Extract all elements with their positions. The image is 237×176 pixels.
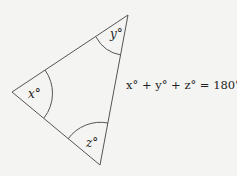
angle-arc-left xyxy=(44,70,53,118)
angle-label-z: z° xyxy=(85,136,98,150)
angle-sum-equation: x° + y° + z° = 180° xyxy=(126,78,237,92)
angle-label-y: y° xyxy=(109,27,123,41)
angle-label-x: x° xyxy=(28,87,41,101)
